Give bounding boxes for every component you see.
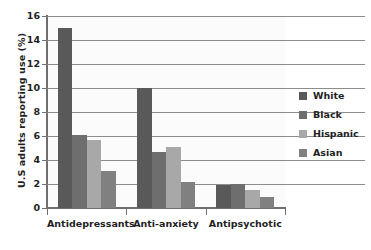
bar — [181, 182, 196, 208]
y-tick-mark — [42, 160, 47, 161]
gridline — [47, 64, 365, 65]
legend-label: Hispanic — [313, 128, 359, 139]
y-tick-label: 6 — [16, 130, 40, 141]
x-group-label: Antidepressants — [47, 218, 126, 229]
y-tick-label: 10 — [16, 82, 40, 93]
legend-item: White — [299, 86, 359, 105]
y-tick-mark — [42, 88, 47, 89]
y-tick-mark — [42, 112, 47, 113]
legend-item: Black — [299, 105, 359, 124]
legend-label: Asian — [313, 147, 342, 158]
gridline — [47, 16, 365, 17]
x-tick-mark — [47, 209, 48, 215]
bar — [87, 140, 102, 208]
legend-item: Asian — [299, 143, 359, 162]
bar — [137, 88, 152, 208]
bar — [231, 184, 246, 208]
y-tick-label: 2 — [16, 178, 40, 189]
y-tick-label: 16 — [16, 10, 40, 21]
y-tick-mark — [42, 184, 47, 185]
bar — [72, 135, 87, 208]
y-tick-label: 12 — [16, 58, 40, 69]
legend-swatch-icon — [299, 149, 307, 157]
y-tick-label: 4 — [16, 154, 40, 165]
bar — [216, 185, 231, 208]
bar — [245, 190, 260, 208]
bar — [58, 28, 73, 208]
x-group-label: Antipsychotic — [206, 218, 285, 229]
bar — [166, 147, 181, 208]
legend-item: Hispanic — [299, 124, 359, 143]
bar — [260, 197, 275, 208]
y-tick-mark — [42, 40, 47, 41]
x-tick-mark — [206, 209, 207, 215]
x-tick-mark — [126, 209, 127, 215]
legend-swatch-icon — [299, 130, 307, 138]
y-tick-mark — [42, 136, 47, 137]
legend: WhiteBlackHispanicAsian — [299, 86, 359, 162]
bar-chart-figure: U.S adults reporting use (%) 02468101214… — [0, 0, 371, 250]
y-tick-mark — [42, 64, 47, 65]
legend-swatch-icon — [299, 92, 307, 100]
y-tick-label: 0 — [16, 202, 40, 213]
y-tick-label: 14 — [16, 34, 40, 45]
legend-label: Black — [313, 109, 342, 120]
x-tick-mark — [285, 209, 286, 215]
x-group-label: Anti-anxiety — [126, 218, 205, 229]
bar — [152, 152, 167, 208]
legend-label: White — [313, 90, 344, 101]
legend-swatch-icon — [299, 111, 307, 119]
y-tick-label: 8 — [16, 106, 40, 117]
gridline — [47, 40, 365, 41]
bar — [101, 171, 116, 208]
y-tick-mark — [42, 16, 47, 17]
